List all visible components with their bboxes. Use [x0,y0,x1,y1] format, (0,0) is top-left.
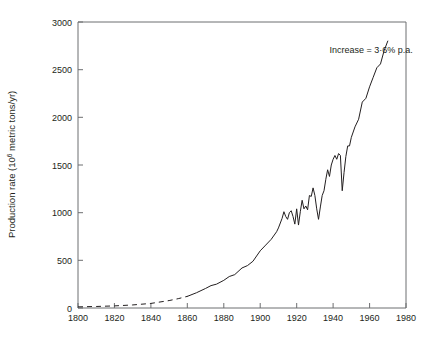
x-tick-label: 1820 [104,313,124,323]
x-tick-label: 1860 [177,313,197,323]
chart-figure: Production rate (106 metric tons/yr) 0 5… [0,0,422,348]
series-line-estimated [78,296,187,306]
x-tick-label: 1900 [250,313,270,323]
y-axis-title-before: Production rate (10 [6,157,17,238]
y-tick-label: 500 [57,256,72,266]
y-tick-label: 2000 [52,113,72,123]
y-axis-ticks [78,22,83,308]
y-axis-title-after: metric tons/yr) [6,91,17,154]
x-tick-label: 1800 [68,313,88,323]
plot-frame [78,22,406,308]
production-rate-line-chart: Production rate (106 metric tons/yr) 0 5… [0,0,422,348]
series-line-production [187,41,387,296]
y-tick-label: 2500 [52,65,72,75]
increase-rate-annotation: Increase = 3·6% p.a. [329,45,412,55]
y-tick-label: 0 [67,304,72,314]
x-tick-label: 1880 [214,313,234,323]
svg-text:Production rate (106 metric to: Production rate (106 metric tons/yr) [6,91,18,238]
x-axis-tick-labels: 1800 1820 1840 1860 1880 1900 1920 1940 … [68,313,416,323]
y-tick-label: 1000 [52,208,72,218]
x-tick-label: 1840 [141,313,161,323]
x-tick-label: 1920 [287,313,307,323]
x-tick-label: 1940 [323,313,343,323]
y-axis-title: Production rate (106 metric tons/yr) [6,91,18,238]
x-tick-label: 1960 [360,313,380,323]
y-axis-tick-labels: 0 500 1000 1500 2000 2500 3000 [52,18,72,314]
x-tick-label: 1980 [396,313,416,323]
y-tick-label: 3000 [52,18,72,28]
y-tick-label: 1500 [52,161,72,171]
